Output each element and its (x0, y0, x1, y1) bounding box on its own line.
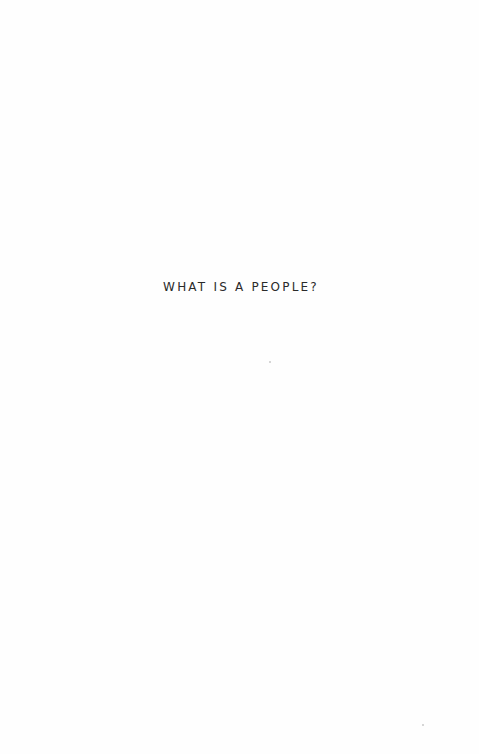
scan-speck (422, 724, 424, 726)
half-title: WHAT IS A PEOPLE? (0, 279, 479, 295)
book-page: WHAT IS A PEOPLE? (0, 0, 479, 754)
scan-speck (269, 361, 271, 363)
